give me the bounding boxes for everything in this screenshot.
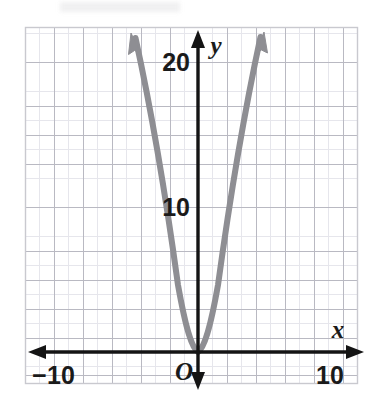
figure-container: x y 20 10 − 10 10 O — [0, 0, 382, 401]
x-tick-label-minus-10: 10 — [47, 361, 75, 389]
y-axis-label: y — [207, 32, 222, 59]
origin-label: O — [175, 358, 193, 385]
plot-background — [25, 27, 358, 384]
y-tick-label-20: 20 — [162, 48, 190, 76]
x-axis-label: x — [331, 316, 345, 343]
y-tick-label-10: 10 — [162, 193, 190, 221]
x-tick-label-10: 10 — [316, 361, 344, 389]
x-tick-minus-sign: − — [32, 361, 47, 389]
coordinate-plane-svg: x y 20 10 − 10 10 O — [0, 0, 382, 401]
